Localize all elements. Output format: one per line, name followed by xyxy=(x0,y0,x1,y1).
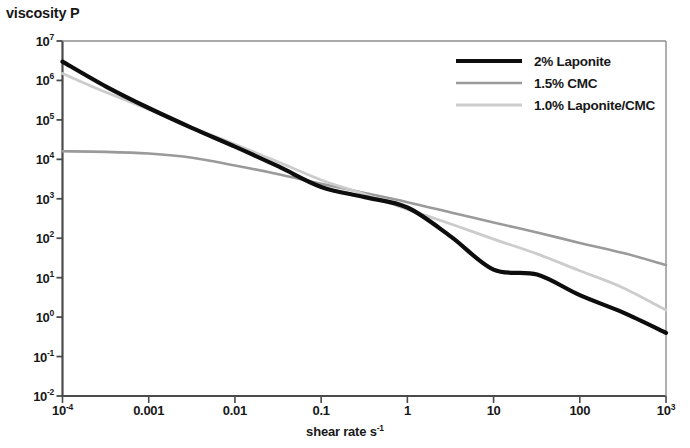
y-tick-base: 10 xyxy=(36,310,50,325)
y-tick-label: 107 xyxy=(14,34,54,49)
y-tick-base: 10 xyxy=(33,389,47,404)
y-tick-exponent: 6 xyxy=(50,72,54,82)
y-tick-base: 10 xyxy=(33,349,47,364)
y-tick-label: 100 xyxy=(14,310,54,325)
x-tick-label: 10 xyxy=(487,403,501,418)
y-tick-exponent: 5 xyxy=(50,111,54,121)
y-tick-label: 105 xyxy=(14,112,54,127)
x-axis-title-exponent: -1 xyxy=(377,423,384,433)
x-tick-label: 103 xyxy=(657,403,675,418)
x-tick-base: 10 xyxy=(657,403,671,418)
y-tick-label: 10-1 xyxy=(14,349,54,364)
x-tick-base: 0.001 xyxy=(133,403,164,418)
y-tick-base: 10 xyxy=(36,152,50,167)
y-tick-exponent: 3 xyxy=(50,190,54,200)
y-tick-base: 10 xyxy=(36,231,50,246)
legend-item-label: 1.5% CMC xyxy=(534,76,597,91)
x-tick-base: 0.01 xyxy=(223,403,247,418)
y-tick-exponent: 4 xyxy=(50,151,54,161)
y-tick-base: 10 xyxy=(36,73,50,88)
x-tick-label: 0.01 xyxy=(223,403,247,418)
x-tick-base: 1 xyxy=(404,403,411,418)
y-tick-label: 102 xyxy=(14,231,54,246)
y-tick-base: 10 xyxy=(36,34,50,49)
x-tick-label: 10-4 xyxy=(52,403,73,418)
legend-item-label: 1.0% Laponite/CMC xyxy=(534,98,655,113)
y-tick-label: 106 xyxy=(14,73,54,88)
x-tick-exponent: -4 xyxy=(66,402,73,412)
x-tick-exponent: 3 xyxy=(671,402,675,412)
y-tick-exponent: -2 xyxy=(47,387,54,397)
legend-swatches xyxy=(456,61,522,105)
y-tick-base: 10 xyxy=(36,191,50,206)
y-tick-exponent: 2 xyxy=(50,229,54,239)
legend-item-label: 2% Laponite xyxy=(534,54,611,69)
y-tick-exponent: 7 xyxy=(50,32,54,42)
x-tick-label: 100 xyxy=(569,403,590,418)
y-tick-exponent: -1 xyxy=(47,348,54,358)
x-tick-base: 100 xyxy=(569,403,590,418)
x-tick-base: 10 xyxy=(52,403,66,418)
y-tick-label: 104 xyxy=(14,152,54,167)
y-tick-exponent: 1 xyxy=(50,269,54,279)
x-axis-title-text: shear rate s xyxy=(306,424,377,439)
x-axis-title: shear rate s-1 xyxy=(0,424,690,439)
chart-figure: viscosity P 10710610510410310210110010-1… xyxy=(0,0,690,448)
x-tick-base: 0.1 xyxy=(313,403,330,418)
x-tick-label: 1 xyxy=(404,403,411,418)
series-line-1 xyxy=(63,151,667,265)
x-tick-base: 10 xyxy=(487,403,501,418)
x-tick-label: 0.001 xyxy=(133,403,164,418)
x-tick-label: 0.1 xyxy=(313,403,330,418)
tick-marks xyxy=(57,41,667,403)
y-tick-label: 103 xyxy=(14,191,54,206)
y-tick-base: 10 xyxy=(36,112,50,127)
y-tick-label: 101 xyxy=(14,270,54,285)
y-tick-exponent: 0 xyxy=(50,308,54,318)
y-tick-label: 10-2 xyxy=(14,389,54,404)
y-tick-base: 10 xyxy=(36,270,50,285)
y-axis-title: viscosity P xyxy=(6,5,80,21)
axis-lines xyxy=(63,41,667,396)
